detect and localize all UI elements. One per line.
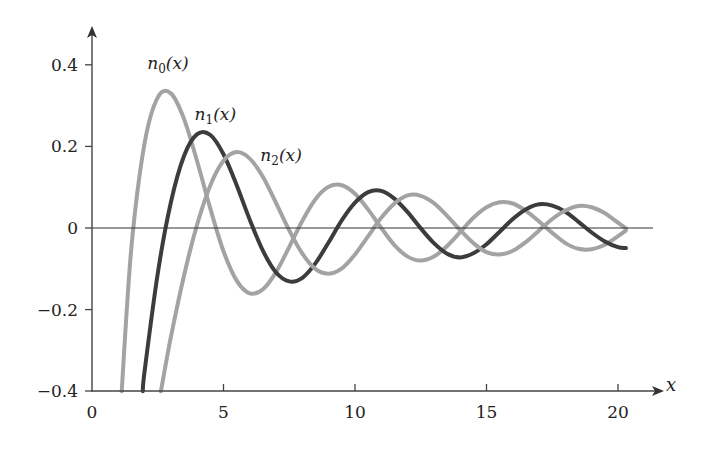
x-axis-ticks: 05101520: [87, 384, 629, 422]
curve-label: n0(x): [147, 53, 188, 76]
x-tick-label: 20: [607, 402, 629, 422]
y-tick-label: 0.4: [51, 55, 78, 75]
y-tick-label: 0.2: [51, 136, 78, 156]
curve-labels: n0(x)n1(x)n2(x): [147, 53, 302, 168]
y-axis-ticks: 0.40.20−0.2−0.4: [37, 55, 92, 401]
line-chart: 0.40.20−0.2−0.4 05101520 x n0(x)n1(x)n2(…: [0, 0, 707, 449]
y-tick-label: 0: [67, 218, 78, 238]
x-axis-label: x: [666, 374, 676, 395]
curve-label: n1(x): [195, 104, 236, 127]
x-tick-label: 10: [344, 402, 366, 422]
x-tick-label: 0: [87, 402, 98, 422]
curve-label: n2(x): [260, 145, 301, 168]
x-tick-label: 5: [218, 402, 229, 422]
plot-area: [122, 91, 626, 391]
x-tick-label: 15: [476, 402, 498, 422]
y-tick-label: −0.2: [37, 300, 78, 320]
y-tick-label: −0.4: [37, 381, 78, 401]
